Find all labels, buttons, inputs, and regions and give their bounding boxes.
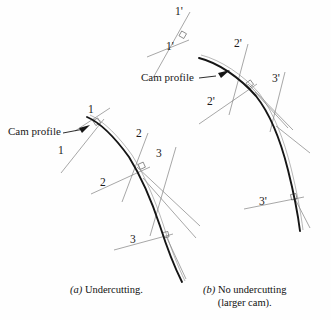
caption-b-marker: (b) [203,284,215,295]
caption-a: (a) Undercutting. [70,283,143,296]
cam-profile-label-a: Cam profile [8,126,61,137]
tangent-label-2p: 2' [234,38,242,50]
caption-b-text: No undercutting [215,284,286,295]
caption-b-line2: (larger cam). [203,296,286,309]
normal-label-2p: 2' [207,96,215,108]
normal-label-1p: 1' [166,41,174,53]
tangent-label-1p: 1' [175,6,183,18]
tangent-label-1: 1 [88,104,94,116]
caption-a-text: Undercutting. [82,284,143,295]
normal-label-2: 2 [100,177,106,189]
tangent-label-3p: 3' [272,73,280,85]
normal-label-3p: 3' [259,196,267,208]
caption-a-marker: (a) [70,284,82,295]
normal-label-1: 1 [58,145,64,157]
cam-profile-label-b: Cam profile [141,72,194,83]
tangent-label-3: 3 [156,148,162,160]
tangent-label-2: 2 [136,128,142,140]
caption-b: (b) No undercutting (larger cam). [203,283,286,309]
normal-label-3: 3 [130,234,136,246]
figure-page: Cam profile 1 1 2 2 3 3 Cam profile 1' 1… [0,0,331,320]
caption-b-line1: (b) No undercutting [203,283,286,296]
